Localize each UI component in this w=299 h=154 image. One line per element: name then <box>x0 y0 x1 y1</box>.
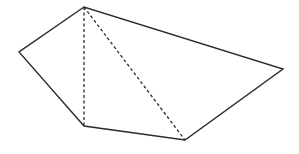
pentagon-diagram <box>0 0 299 154</box>
pentagon-edge-outline <box>19 7 283 140</box>
dashed-diagonals <box>84 7 185 140</box>
pentagon-outline <box>19 7 283 140</box>
diagonal-ad <box>84 7 185 140</box>
